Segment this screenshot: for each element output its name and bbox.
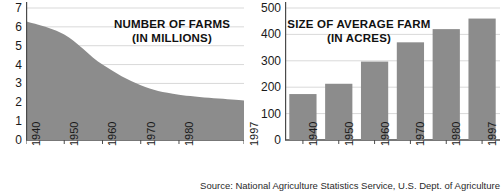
- left-chart-title-line1: NUMBER OF FARMS: [106, 18, 238, 30]
- right-xtick-1950: 1950: [343, 122, 355, 146]
- right-xtick-1997: 1997: [486, 122, 498, 146]
- left-xtick-1970: 1970: [145, 122, 157, 146]
- left-ytick-1: 1: [15, 115, 22, 127]
- left-xtick-1950: 1950: [68, 122, 80, 146]
- left-ytick-5: 5: [15, 40, 22, 52]
- left-ytick-2: 2: [15, 96, 22, 108]
- left-chart-y-axis-labels: 76543210: [0, 0, 22, 148]
- left-xtick-1960: 1960: [106, 122, 118, 146]
- left-ytick-4: 4: [15, 59, 22, 71]
- figure-container: 76543210 194019501960197019801997 NUMBER…: [0, 0, 503, 196]
- left-ytick-3: 3: [15, 77, 22, 89]
- left-xtick-1980: 1980: [183, 122, 195, 146]
- left-ytick-0: 0: [15, 134, 22, 146]
- left-xtick-1940: 1940: [30, 122, 42, 146]
- right-ytick-300: 300: [261, 55, 281, 67]
- chart-panel-size-of-average-farm: 5004003002001000 19401950196019701980199…: [253, 0, 503, 180]
- right-ytick-0: 0: [274, 134, 281, 146]
- right-ytick-100: 100: [261, 108, 281, 120]
- right-ytick-500: 500: [261, 2, 281, 14]
- right-xtick-1970: 1970: [414, 122, 426, 146]
- right-chart-title-line1: SIZE OF AVERAGE FARM: [275, 18, 443, 30]
- right-xtick-1940: 1940: [307, 122, 319, 146]
- right-xtick-1960: 1960: [379, 122, 391, 146]
- right-ytick-200: 200: [261, 81, 281, 93]
- right-chart-title-line2: (IN ACRES): [275, 32, 443, 44]
- chart-panel-number-of-farms: 76543210 194019501960197019801997 NUMBER…: [0, 0, 246, 180]
- left-chart-title-line2: (IN MILLIONS): [106, 32, 238, 44]
- left-ytick-7: 7: [15, 2, 22, 14]
- right-xtick-1980: 1980: [450, 122, 462, 146]
- left-ytick-6: 6: [15, 21, 22, 33]
- left-chart-title: NUMBER OF FARMS (IN MILLIONS): [106, 18, 238, 44]
- source-attribution: Source: National Agriculture Statistics …: [0, 180, 503, 191]
- right-chart-title: SIZE OF AVERAGE FARM (IN ACRES): [275, 18, 443, 44]
